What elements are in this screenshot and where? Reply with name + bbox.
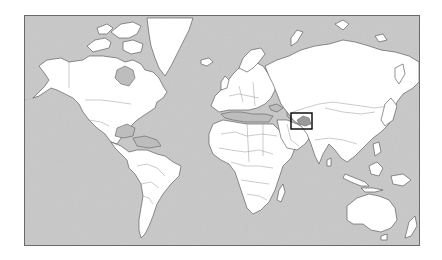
world-map xyxy=(24,15,420,246)
world-map-svg xyxy=(25,16,419,245)
